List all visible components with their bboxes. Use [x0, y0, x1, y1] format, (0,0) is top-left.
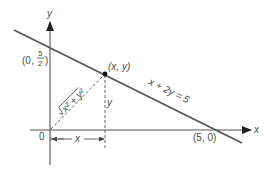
line-x-plus-2y-equals-5 — [14, 30, 242, 143]
x-axis-label: x — [253, 124, 260, 135]
y-intercept-label: (0, 5 2 ) — [22, 49, 48, 68]
vertical-dimension-label: y — [106, 97, 113, 108]
origin-label: 0 — [39, 131, 45, 142]
svg-text:2: 2 — [38, 59, 43, 68]
equation-label: x + 2y = 5 — [146, 75, 192, 105]
diagram-svg: y x 0 (0, 5 2 ) (5, 0) x + 2y = 5 x² + y… — [0, 0, 267, 170]
svg-text:x² + y²: x² + y² — [59, 86, 88, 115]
svg-text:x: x — [74, 133, 81, 144]
svg-text:5: 5 — [38, 49, 43, 58]
distance-label: x² + y² — [56, 86, 88, 118]
point-xy-label: (x, y) — [108, 61, 130, 72]
x-intercept-label: (5, 0) — [193, 132, 216, 143]
horizontal-dimension: x — [51, 133, 104, 144]
point-xy — [103, 72, 108, 77]
coordinate-diagram: y x 0 (0, 5 2 ) (5, 0) x + 2y = 5 x² + y… — [0, 0, 267, 170]
svg-text:): ) — [45, 55, 48, 66]
y-axis-label: y — [46, 8, 53, 19]
svg-text:(0,: (0, — [22, 55, 34, 66]
